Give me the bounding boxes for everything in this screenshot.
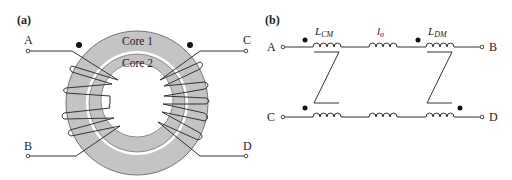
terminal-c-label: C [243,33,251,47]
label-l-sigma: lσ [377,25,385,39]
panel-a-label: (a) [17,13,31,27]
terminal-b-label-b: B [489,40,497,54]
core-1-label: Core 1 [122,35,153,47]
polarity-dot-c [187,42,193,48]
panel-a: (a) Core 1 Core 2 A B C D [17,13,252,175]
panel-b-label: (b) [265,13,280,27]
polarity-dot-cm-top [303,38,308,43]
figure: (a) Core 1 Core 2 A B C D [0,0,512,180]
terminal-d-node [244,154,248,158]
label-l-cm: LCM [314,25,334,39]
coupling-dm-symbol [427,52,452,103]
terminal-c-node [244,49,248,53]
polarity-dot-cm-bottom [303,106,308,111]
terminal-a-label-b: A [267,40,276,54]
terminal-c-label-b: C [267,110,275,124]
top-line [285,43,480,47]
terminal-c-node-b [281,115,285,119]
terminal-d-label-b: D [489,110,498,124]
polarity-dot-dm-top [416,38,421,43]
terminal-d-node-b [480,115,484,119]
terminal-b-label: B [24,139,32,153]
coupling-cm-symbol [314,52,339,103]
terminal-a-node [26,49,30,53]
bottom-line [285,113,480,117]
terminal-b-node [26,154,30,158]
panel-b: (b) A B C D LCM lσ LDM [265,13,498,124]
label-l-dm: LDM [427,25,448,39]
polarity-dot-a [76,42,82,48]
polarity-dot-dm-bottom [458,106,463,111]
toroid-core [66,31,208,175]
terminal-b-node-b [480,45,484,49]
terminal-a-label: A [24,33,33,47]
terminal-d-label: D [243,139,252,153]
core-2-label: Core 2 [122,57,153,69]
terminal-a-node-b [281,45,285,49]
